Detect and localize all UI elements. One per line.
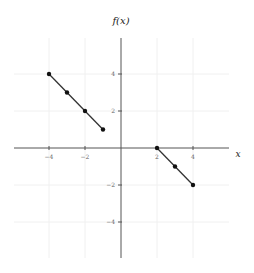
x-tick-label: −4 (45, 153, 54, 160)
data-point (47, 72, 51, 76)
x-axis-label: x (235, 149, 240, 159)
segment-right (155, 146, 195, 187)
y-tick-label: −4 (106, 218, 115, 225)
data-point (191, 183, 195, 187)
segment-left (47, 72, 105, 132)
x-tick-label: −2 (81, 153, 90, 160)
line-segment (49, 74, 103, 130)
y-tick-label: 4 (111, 70, 115, 77)
data-point (83, 109, 87, 113)
y-tick-label: −2 (106, 181, 115, 188)
x-tick-label: 2 (155, 153, 159, 160)
y-tick-label: 2 (111, 107, 115, 114)
y-axis-label: f(x) (111, 15, 129, 26)
data-point (173, 164, 177, 168)
data-point (155, 146, 159, 150)
axes (14, 38, 229, 258)
data-point (101, 127, 105, 131)
data-point (65, 90, 69, 94)
function-plot: −4−22442−2−4 f(x) x (0, 0, 254, 273)
x-tick-label: 4 (191, 153, 195, 160)
